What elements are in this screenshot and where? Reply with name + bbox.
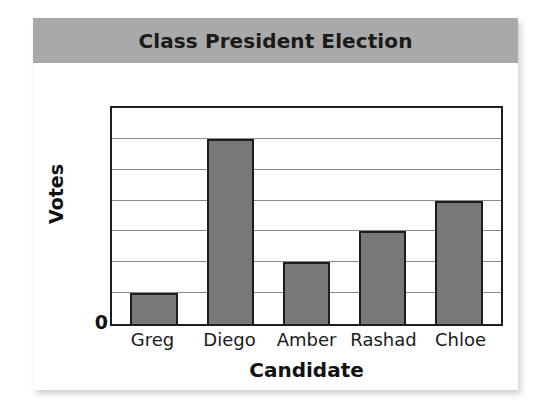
bar-slot [345,108,421,324]
x-axis-tick-labels: GregDiegoAmberRashadChloe [110,329,503,350]
bar-series [112,108,501,324]
bar-greg [130,293,177,324]
bar-chloe [435,201,482,324]
x-tick-diego: Diego [191,329,268,350]
x-axis-label: Candidate [110,358,503,382]
bar-slot [268,108,344,324]
y-axis-label: Votes [45,149,67,239]
bar-amber [283,262,330,324]
chart-title-banner: Class President Election [33,18,518,63]
bar-slot [192,108,268,324]
bar-slot [421,108,497,324]
chart-title: Class President Election [138,29,412,53]
bar-slot [116,108,192,324]
x-tick-chloe: Chloe [422,329,499,350]
plot-area [110,106,503,326]
x-tick-rashad: Rashad [345,329,422,350]
bar-rashad [359,231,406,324]
bar-diego [207,139,254,324]
x-tick-amber: Amber [268,329,345,350]
y-axis-tick-zero: 0 [88,311,108,333]
chart-card: Class President Election Votes 0 GregDie… [33,18,518,390]
x-tick-greg: Greg [114,329,191,350]
chart-figure: Votes 0 GregDiegoAmberRashadChloe Candid… [33,63,518,390]
